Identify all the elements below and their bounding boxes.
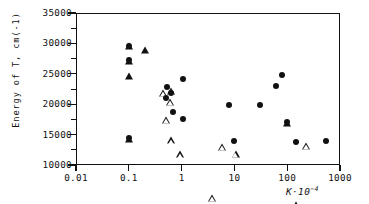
x-axis-label-base: K·10 [286, 186, 310, 197]
x-tick-label: 0.01 [64, 172, 88, 183]
data-point-filled-circle [168, 90, 174, 96]
data-point-filled-circle [180, 116, 186, 122]
data-point-open-triangle [232, 150, 240, 157]
data-point-open-triangle [302, 142, 310, 149]
data-point-filled-circle [257, 102, 263, 108]
x-axis-label: K·10−4 [286, 185, 319, 197]
data-point-filled-circle [273, 83, 279, 89]
x-tick-label: 100 [278, 172, 296, 183]
y-tick-label: 30000 [43, 37, 73, 48]
x-tick-mark [181, 165, 182, 171]
x-axis-label-exponent: −4 [310, 185, 319, 193]
data-point-filled-circle [293, 139, 299, 145]
y-axis-label: Energy of T, cm(-1) [11, 0, 27, 140]
x-tick-mark [234, 165, 235, 171]
x-tick-label: 10 [228, 172, 240, 183]
data-point-open-triangle [208, 194, 216, 201]
data-point-filled-triangle [125, 73, 133, 80]
y-tick-minor [71, 89, 76, 90]
data-point-filled-circle [226, 102, 232, 108]
y-tick-label: 10000 [43, 159, 73, 170]
data-point-filled-circle [170, 109, 176, 115]
data-point-open-triangle [162, 116, 170, 123]
y-tick-label: 15000 [43, 129, 73, 140]
data-point-filled-circle [126, 57, 132, 63]
y-tick-minor [71, 28, 76, 29]
data-point-open-triangle [176, 151, 184, 158]
scatter-chart-figure: Energy of T, cm(-1) K·10−4 1000015000200… [0, 0, 369, 204]
y-tick-label: 20000 [43, 98, 73, 109]
data-point-filled-circle [163, 95, 169, 101]
data-point-filled-circle [164, 84, 170, 90]
x-tick-label: 1 [179, 172, 185, 183]
x-tick-mark [339, 165, 340, 171]
data-point-filled-circle [126, 135, 132, 141]
data-point-filled-circle [323, 138, 329, 144]
y-tick-minor [71, 119, 76, 120]
x-tick-mark [75, 165, 76, 171]
data-point-filled-circle [279, 72, 285, 78]
data-point-filled-circle [126, 43, 132, 49]
data-point-filled-triangle [141, 47, 149, 54]
x-tick-mark [128, 165, 129, 171]
plot-area [76, 13, 340, 165]
y-tick-minor [71, 149, 76, 150]
y-tick-minor [71, 58, 76, 59]
data-point-filled-circle [231, 138, 237, 144]
data-point-open-triangle [292, 201, 300, 204]
x-tick-label: 0.1 [120, 172, 138, 183]
data-point-filled-circle [180, 76, 186, 82]
x-tick-mark [287, 165, 288, 171]
data-point-open-triangle [167, 137, 175, 144]
y-tick-label: 35000 [43, 7, 73, 18]
x-tick-label: 1000 [328, 172, 352, 183]
y-tick-label: 25000 [43, 68, 73, 79]
data-point-open-triangle [218, 143, 226, 150]
data-point-filled-circle [284, 119, 290, 125]
